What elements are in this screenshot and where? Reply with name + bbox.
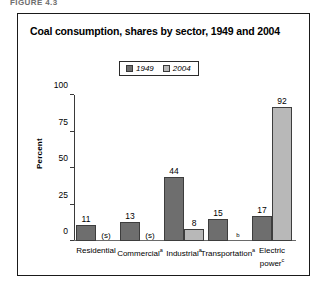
bar-flag-residential-2004: (s)	[101, 231, 110, 240]
bar-group-commercial: 13 (s) Commerciala	[120, 222, 160, 241]
bar-value-industrial-1949: 44	[169, 166, 178, 176]
x-label-transportation: Transportationa	[201, 246, 255, 258]
plot-area: 100 75 50 25 0 11 (s) Residential 13	[74, 95, 296, 241]
x-label-electric-power: Electric powerc	[259, 246, 285, 268]
y-tick-label-100: 100	[42, 80, 68, 90]
bar-value-commercial-1949: 13	[125, 211, 134, 221]
y-tick-label-75: 75	[42, 117, 68, 127]
bar-commercial-1949[interactable]: 13	[120, 222, 140, 241]
chart-title: Coal consumption, shares by sector, 1949…	[30, 25, 280, 37]
y-tick-100	[70, 94, 74, 95]
y-tick-label-25: 25	[42, 190, 68, 200]
y-tick-50	[70, 167, 74, 168]
bar-group-industrial: 44 8 Industriala	[164, 177, 204, 241]
x-label-industrial: Industriala	[166, 246, 202, 258]
bar-group-electric-power: 17 92 Electric powerc	[252, 107, 292, 241]
y-tick-75	[70, 131, 74, 132]
bar-value-electric-power-1949: 17	[257, 205, 266, 215]
bar-group-transportation: 15 b Transportationa	[208, 219, 248, 241]
figure-box: Coal consumption, shares by sector, 1949…	[17, 13, 310, 276]
legend-label-1949: 1949	[136, 64, 154, 73]
bar-industrial-2004[interactable]: 8	[184, 229, 204, 241]
y-tick-25	[70, 204, 74, 205]
legend-label-2004: 2004	[173, 64, 191, 73]
bar-flag-commercial-2004: (s)	[145, 231, 154, 240]
bar-value-electric-power-2004: 92	[277, 96, 286, 106]
bar-industrial-1949[interactable]: 44	[164, 177, 184, 241]
bar-electric-power-1949[interactable]: 17	[252, 216, 272, 241]
bar-residential-1949[interactable]: 11	[76, 225, 96, 241]
chart-legend: 1949 2004	[119, 61, 199, 76]
bar-value-industrial-2004: 8	[192, 218, 197, 228]
legend-swatch-1949	[126, 65, 133, 72]
y-tick-label-50: 50	[42, 153, 68, 163]
legend-item-1949: 1949	[126, 64, 154, 73]
y-tick-label-0: 0	[42, 226, 68, 236]
legend-item-2004: 2004	[163, 64, 191, 73]
x-label-residential: Residential	[76, 246, 116, 256]
bar-electric-power-2004[interactable]: 92	[272, 107, 292, 241]
bar-value-residential-1949: 11	[82, 214, 91, 224]
bar-flag-transportation-2004: b	[236, 232, 239, 238]
figure-label: FIGURE 4.3	[10, 0, 58, 7]
y-axis-line	[74, 95, 75, 241]
bar-value-transportation-1949: 15	[213, 208, 222, 218]
bar-group-residential: 11 (s) Residential	[76, 225, 116, 241]
x-label-commercial: Commerciala	[117, 246, 163, 258]
legend-swatch-2004	[163, 65, 170, 72]
bar-transportation-1949[interactable]: 15	[208, 219, 228, 241]
y-tick-0	[70, 240, 74, 241]
